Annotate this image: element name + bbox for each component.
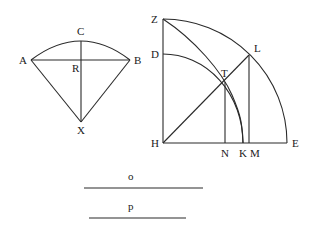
- label-p: p: [128, 200, 134, 212]
- label-A: A: [19, 54, 27, 66]
- label-R: R: [72, 62, 80, 74]
- label-M: M: [250, 147, 260, 159]
- radius-XB: [81, 60, 130, 122]
- label-T: T: [221, 67, 228, 79]
- left-figure: C A B R X: [19, 25, 141, 136]
- label-E: E: [292, 137, 299, 149]
- label-N: N: [221, 147, 229, 159]
- label-Z: Z: [151, 13, 158, 25]
- geometry-diagram: C A B R X Z D H E L T N K M o p: [0, 0, 314, 237]
- segments: o p: [84, 170, 203, 218]
- label-H: H: [151, 137, 159, 149]
- label-B: B: [134, 54, 141, 66]
- curve-ZTK: [163, 19, 243, 143]
- label-D: D: [151, 48, 159, 60]
- label-K: K: [239, 147, 247, 159]
- arc-DK: [163, 54, 243, 143]
- label-C: C: [77, 25, 84, 37]
- label-X: X: [77, 124, 85, 136]
- right-figure: Z D H E L T N K M: [151, 13, 299, 159]
- label-L: L: [254, 42, 261, 54]
- label-o: o: [128, 170, 134, 182]
